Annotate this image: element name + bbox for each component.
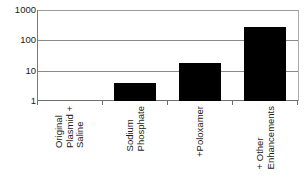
log-scale-bar-chart: 1000 100 10 1 Original — [0, 0, 307, 184]
x-label-line: Original — [54, 106, 65, 148]
x-label-sodium-phosphate: Sodium Phosphate — [124, 106, 145, 151]
y-tick-label-1000: 1000 — [2, 5, 36, 15]
x-label-slot-sodium-phosphate: Sodium Phosphate — [102, 106, 167, 184]
x-label-line: Saline — [75, 106, 86, 148]
y-tick-label-100: 100 — [2, 36, 36, 46]
x-label-line: Plasmid + — [64, 106, 75, 148]
x-tick-4 — [297, 101, 298, 105]
bars-layer — [37, 10, 297, 101]
x-label-line: + Other — [254, 106, 265, 169]
bar-slot-other-enhancements — [232, 10, 297, 101]
x-label-line: +Poloxamer — [194, 106, 205, 157]
y-axis-tick-labels: 1000 100 10 1 — [0, 0, 36, 184]
x-tick-3 — [232, 101, 233, 105]
bar-sodium-phosphate[interactable] — [114, 83, 156, 101]
x-axis-category-labels: Original Plasmid + Saline Sodium Phospha… — [37, 106, 297, 184]
y-tick-label-10: 10 — [2, 66, 36, 76]
bar-other-enhancements[interactable] — [244, 27, 286, 101]
x-label-line: Enhancements — [265, 106, 276, 169]
x-tick-2 — [167, 101, 168, 105]
x-tick-1 — [102, 101, 103, 105]
x-label-slot-poloxamer: +Poloxamer — [167, 106, 232, 184]
x-label-original-plasmid-saline: Original Plasmid + Saline — [54, 106, 86, 148]
x-label-line: Sodium — [124, 106, 135, 151]
x-label-line: Phosphate — [135, 106, 146, 151]
x-tick-0 — [37, 101, 38, 105]
bar-slot-original-plasmid-saline — [37, 10, 102, 101]
x-label-slot-other-enhancements: + Other Enhancements — [232, 106, 297, 184]
x-label-slot-original-plasmid-saline: Original Plasmid + Saline — [37, 106, 102, 184]
y-tick-label-1: 1 — [2, 96, 36, 106]
bar-slot-sodium-phosphate — [102, 10, 167, 101]
x-label-poloxamer: +Poloxamer — [194, 106, 205, 157]
bar-slot-poloxamer — [167, 10, 232, 101]
x-label-other-enhancements: + Other Enhancements — [254, 106, 275, 169]
bar-poloxamer[interactable] — [179, 63, 221, 101]
